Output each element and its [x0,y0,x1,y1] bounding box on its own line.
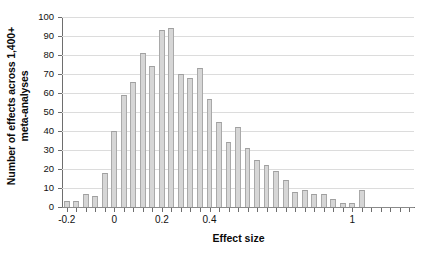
gridline [62,36,414,37]
bar [283,180,289,207]
y-tick-label: 20 [28,164,54,174]
x-tick-mark [371,208,372,212]
gridline [62,112,414,113]
x-tick-label: 0.2 [142,214,182,226]
x-tick-mark [352,208,353,212]
y-tick-label: 60 [28,88,54,98]
x-tick-label: 0.4 [190,214,230,226]
x-tick-mark [86,208,87,212]
y-tick-label: 50 [28,107,54,117]
bar [159,30,165,207]
bar [292,192,298,207]
x-tick-mark [248,208,249,212]
gridline [62,93,414,94]
y-tick-label: 100 [28,12,54,22]
bar [121,95,127,207]
bar [140,53,146,207]
x-tick-mark [324,208,325,212]
x-tick-mark [305,208,306,212]
bar [83,194,89,207]
bar [178,74,184,207]
x-tick-mark [381,208,382,212]
x-tick-mark [171,208,172,212]
x-tick-mark [343,208,344,212]
x-tick-mark [314,208,315,212]
x-tick-mark [286,208,287,212]
plot-area [62,17,414,207]
bar [168,28,174,207]
bar [197,68,203,207]
bar [207,99,213,207]
x-tick-mark [229,208,230,212]
x-tick-mark [409,208,410,212]
x-tick-mark [76,208,77,212]
x-tick-mark [114,208,115,212]
bar [226,142,232,207]
x-tick-mark [200,208,201,212]
gridline [62,55,414,56]
bar [321,194,327,207]
bar [302,190,308,207]
x-tick-mark [400,208,401,212]
x-tick-mark [219,208,220,212]
bar [130,82,136,207]
histogram-figure: Number of effects across 1,400+ meta-ana… [0,0,422,255]
x-tick-mark [181,208,182,212]
x-tick-label: -0.2 [47,214,87,226]
y-axis-title-line-1: Number of effects across 1,400+ [5,27,17,185]
x-tick-mark [276,208,277,212]
bar [149,66,155,207]
y-tick-label: 90 [28,31,54,41]
bar [111,131,117,207]
y-tick-label: 40 [28,126,54,136]
bar [264,165,270,207]
y-tick-label: 10 [28,183,54,193]
bar [340,203,346,207]
x-tick-mark [333,208,334,212]
bar [311,194,317,207]
bar [245,148,251,207]
x-tick-mark [124,208,125,212]
x-tick-mark [362,208,363,212]
bar [187,78,193,207]
x-tick-mark [152,208,153,212]
x-tick-mark [190,208,191,212]
bar [273,171,279,207]
bar [349,203,355,207]
gridline [62,74,414,75]
x-tick-mark [162,208,163,212]
y-tick-label: 0 [28,202,54,212]
bar [216,122,222,208]
x-tick-mark [143,208,144,212]
x-tick-label: 0 [94,214,134,226]
y-tick-label: 30 [28,145,54,155]
bar [102,173,108,207]
bar [64,201,70,207]
bar [92,196,98,207]
x-tick-mark [95,208,96,212]
x-tick-mark [210,208,211,212]
x-tick-mark [105,208,106,212]
x-tick-mark [238,208,239,212]
bar [330,199,336,207]
bar [359,190,365,207]
bar [254,160,260,208]
y-tick-label: 80 [28,50,54,60]
gridline [62,17,414,18]
x-tick-mark [257,208,258,212]
x-tick-label: 1 [332,214,372,226]
x-tick-mark [267,208,268,212]
x-tick-mark [133,208,134,212]
x-tick-mark [390,208,391,212]
bar [235,127,241,207]
x-axis-title: Effect size [62,232,415,244]
y-tick-label: 70 [28,69,54,79]
bar [73,201,79,207]
x-tick-mark [295,208,296,212]
x-tick-mark [67,208,68,212]
